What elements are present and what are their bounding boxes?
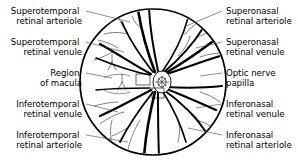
label-line-2: of macula — [40, 78, 82, 88]
label-line-2: retinal venule — [24, 109, 82, 119]
label-line-1: Superonasal — [226, 6, 279, 16]
label-inferonasal-retinal-venule: Inferonasal retinal venule — [226, 99, 284, 119]
label-line-2: retinal venule — [226, 47, 284, 57]
label-line-2: retinal venule — [226, 109, 284, 119]
label-region-of-macula: Region of macula — [40, 68, 82, 88]
label-line-1: Inferonasal — [226, 130, 273, 140]
label-optic-nerve-papilla: Optic nerve papilla — [226, 68, 278, 88]
label-inferonasal-retinal-arteriole: Inferonasal retinal arteriole — [226, 130, 292, 150]
label-line-2: retinal arteriole — [16, 140, 82, 150]
label-line-2: papilla — [226, 78, 254, 88]
label-line-1: Region — [50, 68, 79, 78]
label-superonasal-retinal-venule: Superonasal retinal venule — [226, 37, 284, 57]
retinal-fundus-figure: Superotemporal retinal arteriole Superot… — [0, 0, 298, 167]
label-line-1: Optic nerve — [226, 68, 276, 78]
label-line-1: Inferotemporal — [16, 130, 79, 140]
label-line-1: Superotemporal — [11, 37, 79, 47]
fundus-diagram-canvas: Superotemporal retinal arteriole Superot… — [0, 0, 298, 167]
label-inferotemporal-retinal-venule: Inferotemporal retinal venule — [16, 99, 82, 119]
left-label-group: Superotemporal retinal arteriole Superot… — [11, 6, 82, 150]
label-superonasal-retinal-arteriole: Superonasal retinal arteriole — [226, 6, 292, 26]
label-line-1: Superonasal — [226, 37, 279, 47]
label-line-1: Inferotemporal — [16, 99, 79, 109]
label-line-2: retinal venule — [24, 47, 82, 57]
label-inferotemporal-retinal-arteriole: Inferotemporal retinal arteriole — [16, 130, 82, 150]
label-superotemporal-retinal-arteriole: Superotemporal retinal arteriole — [11, 6, 82, 26]
label-line-1: Inferonasal — [226, 99, 273, 109]
leader-superonasal-retinal-arteriole — [186, 11, 222, 26]
label-line-2: retinal arteriole — [16, 16, 82, 26]
label-superotemporal-retinal-venule: Superotemporal retinal venule — [11, 37, 82, 57]
right-label-group: Superonasal retinal arteriole Superonasa… — [226, 6, 292, 150]
label-line-2: retinal arteriole — [226, 16, 292, 26]
inferotemporal-retinal-arteriole-trunk — [158, 92, 159, 156]
label-line-1: Superotemporal — [11, 6, 79, 16]
label-line-2: retinal arteriole — [226, 140, 292, 150]
